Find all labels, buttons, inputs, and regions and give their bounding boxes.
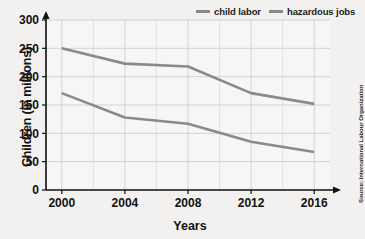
- x-tick-label: 2000: [48, 196, 75, 210]
- x-axis-arrow-icon: [333, 186, 341, 193]
- y-tick-label: 50: [26, 155, 40, 169]
- y-tick-label: 0: [32, 183, 39, 197]
- x-tick-label: 2004: [112, 196, 139, 210]
- y-axis-arrow-icon: [42, 11, 49, 19]
- x-tick-label: 2016: [301, 196, 328, 210]
- y-tick-label: 300: [19, 13, 39, 27]
- x-axis-tick-labels: 20002004200820122016: [48, 196, 327, 210]
- y-tick-label: 250: [19, 42, 39, 56]
- x-tick-label: 2012: [238, 196, 265, 210]
- y-tick-label: 200: [19, 70, 39, 84]
- line-chart: child labor hazardous jobs Children (in …: [0, 0, 365, 239]
- y-tick-label: 100: [19, 127, 39, 141]
- y-tick-label: 150: [19, 98, 39, 112]
- plot-area: 050100150200250300 20002004200820122016: [0, 0, 365, 239]
- x-tick-label: 2008: [175, 196, 202, 210]
- y-axis-tick-labels: 050100150200250300: [19, 13, 39, 197]
